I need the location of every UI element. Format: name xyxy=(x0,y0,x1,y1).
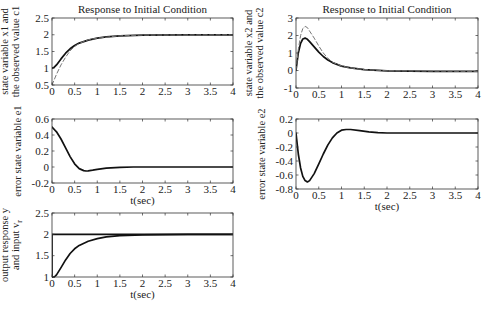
figure: 00.511.522.533.540.511.522.5Response to … xyxy=(0,0,486,311)
x-tick-label: 4 xyxy=(230,183,236,195)
y-tick-label: -0.6 xyxy=(276,169,294,181)
y-tick-label: 0 xyxy=(288,64,294,76)
x-tick-label: 0.5 xyxy=(68,85,82,97)
y-tick-label: 1 xyxy=(44,271,50,283)
y-tick-label: -0.2 xyxy=(32,177,49,189)
x-tick-label: 2.5 xyxy=(158,277,172,289)
x-tick-label: 0.5 xyxy=(312,88,326,100)
series-e2 xyxy=(296,130,478,183)
x-tick-label: 1.5 xyxy=(113,277,127,289)
x-tick-label: 1.5 xyxy=(113,85,127,97)
y-tick-label: 0.2 xyxy=(279,113,293,125)
y-tick-label: 0.4 xyxy=(35,129,49,141)
x-tick-label: 0 xyxy=(293,189,299,201)
y-tick-label: 0.2 xyxy=(35,145,49,157)
x-tick-label: 0.5 xyxy=(68,277,82,289)
chart-panel-top-left: 00.511.522.533.540.511.522.5Response to … xyxy=(0,3,236,97)
x-tick-label: 3.5 xyxy=(448,88,462,100)
x-tick-label: 3 xyxy=(430,88,436,100)
series-c2 xyxy=(296,26,478,71)
y-tick-label: 1 xyxy=(288,47,294,59)
y-axis-label: and input vr xyxy=(10,220,24,270)
y-tick-label: 3 xyxy=(288,12,294,24)
x-tick-label: 4 xyxy=(475,189,481,201)
x-tick-label: 1 xyxy=(95,85,101,97)
y-tick-label: 2.5 xyxy=(35,207,49,219)
chart-title: Response to Initial Condition xyxy=(322,3,452,15)
y-axis-label: state variable x1 and xyxy=(0,7,10,94)
x-tick-label: 0 xyxy=(49,85,55,97)
series-y xyxy=(52,234,233,277)
chart-panel-middle-right: 00.511.522.533.54-0.8-0.6-0.4-0.200.2t(s… xyxy=(256,108,481,213)
y-axis-label: output response y xyxy=(0,207,10,282)
x-tick-label: 1 xyxy=(339,88,345,100)
y-tick-label: 0 xyxy=(288,127,294,139)
x-tick-label: 3.5 xyxy=(204,183,218,195)
x-tick-label: 4 xyxy=(230,277,236,289)
x-tick-label: 0 xyxy=(293,88,299,100)
x-tick-label: 0.5 xyxy=(68,183,82,195)
x-axis-label: t(sec) xyxy=(375,200,400,213)
x-tick-label: 1 xyxy=(95,277,101,289)
y-tick-label: 1.5 xyxy=(35,249,49,261)
x-tick-label: 4 xyxy=(475,88,481,100)
y-tick-label: 1 xyxy=(44,62,50,74)
x-tick-label: 0 xyxy=(49,277,55,289)
x-tick-label: 0.5 xyxy=(312,189,326,201)
y-tick-label: 0 xyxy=(44,161,50,173)
y-axis-label: error state variable e2 xyxy=(256,108,267,199)
y-tick-label: 2 xyxy=(44,228,50,240)
x-tick-label: 1.5 xyxy=(113,183,127,195)
x-tick-label: 3 xyxy=(185,277,191,289)
chart-panel-top-right: 00.511.522.533.54-10123Response to Initi… xyxy=(243,3,481,100)
x-tick-label: 1 xyxy=(95,183,101,195)
x-tick-label: 3 xyxy=(430,189,436,201)
chart-panel-bottom-left: 00.511.522.533.5411.522.5t(sec)output re… xyxy=(0,207,236,302)
y-tick-label: -0.4 xyxy=(276,155,294,167)
x-tick-label: 3 xyxy=(185,85,191,97)
y-tick-label: -1 xyxy=(284,82,293,94)
x-tick-label: 2.5 xyxy=(403,189,417,201)
y-axis-label: the observed value c2 xyxy=(254,7,265,98)
y-tick-label: 0.6 xyxy=(35,113,49,125)
x-tick-label: 1.5 xyxy=(357,88,371,100)
x-tick-label: 1 xyxy=(339,189,345,201)
x-tick-label: 2.5 xyxy=(403,88,417,100)
chart-title: Response to Initial Condition xyxy=(78,3,208,15)
y-tick-label: 2 xyxy=(44,28,50,40)
y-tick-label: 2.5 xyxy=(35,12,49,24)
x-tick-label: 2 xyxy=(384,88,390,100)
x-tick-label: 4 xyxy=(230,85,236,97)
x-axis-label: t(sec) xyxy=(130,288,155,301)
y-tick-label: 1.5 xyxy=(35,45,49,57)
x-tick-label: 2.5 xyxy=(158,85,172,97)
y-axis-label: the observed value c1 xyxy=(10,6,21,97)
series-e1 xyxy=(52,127,233,171)
y-axis-label: state variable x2 and xyxy=(243,9,254,96)
x-tick-label: 2 xyxy=(140,85,146,97)
y-axis-label: error state variable e1 xyxy=(12,105,23,196)
x-tick-label: 3.5 xyxy=(448,189,462,201)
x-tick-label: 1.5 xyxy=(357,189,371,201)
series-x1 xyxy=(52,35,233,69)
x-axis-label: t(sec) xyxy=(130,194,155,207)
series-x2 xyxy=(296,38,478,71)
y-tick-label: 0.5 xyxy=(35,79,49,91)
y-tick-label: -0.2 xyxy=(276,141,293,153)
series-v_r xyxy=(52,234,233,277)
y-tick-label: -0.8 xyxy=(276,183,294,195)
axes-box xyxy=(52,18,233,85)
x-tick-label: 0 xyxy=(49,183,55,195)
chart-panel-middle-left: 00.511.522.533.54-0.200.20.40.6t(sec)err… xyxy=(12,105,236,207)
y-tick-label: 2 xyxy=(288,29,294,41)
x-tick-label: 3.5 xyxy=(204,85,218,97)
x-tick-label: 3.5 xyxy=(204,277,218,289)
x-tick-label: 3 xyxy=(185,183,191,195)
x-tick-label: 2.5 xyxy=(158,183,172,195)
axes-box xyxy=(52,119,233,183)
